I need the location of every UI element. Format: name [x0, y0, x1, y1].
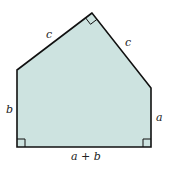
label-bottom-side: a + b [71, 150, 101, 163]
label-top-left-side: c [46, 28, 52, 41]
label-right-side: a [156, 111, 163, 124]
pentagon-diagram: c c b a a + b [0, 0, 169, 170]
label-left-side: b [6, 103, 13, 116]
pentagon-shape [17, 13, 151, 147]
label-top-right-side: c [125, 36, 131, 49]
diagram-canvas: c c b a a + b [0, 0, 169, 170]
